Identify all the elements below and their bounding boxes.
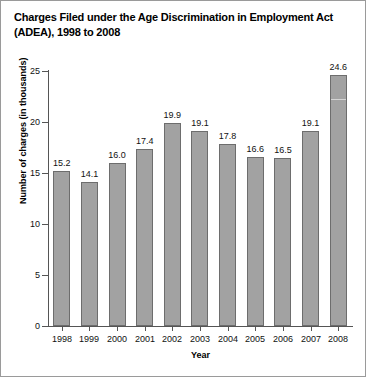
bar-slot: 17.4 <box>131 71 159 326</box>
bar-value-label: 16.0 <box>108 151 126 160</box>
y-axis-tick-label: 10 <box>14 220 40 229</box>
x-axis-tick <box>255 327 256 331</box>
bar-slot: 19.9 <box>159 71 187 326</box>
x-axis-label-2008: 2008 <box>318 334 358 344</box>
x-axis-tick <box>89 327 90 331</box>
y-axis-title: Number of charges (in thousands) <box>18 64 28 204</box>
x-axis-tick <box>228 327 229 331</box>
bar-slot: 24.6 <box>324 71 352 326</box>
x-axis-tick <box>283 327 284 331</box>
bar-value-label: 14.1 <box>81 170 99 179</box>
bar-value-label: 16.6 <box>247 145 265 154</box>
bar-1999[interactable] <box>81 182 98 326</box>
bar-slot: 14.1 <box>76 71 104 326</box>
bar-value-label: 17.8 <box>219 132 237 141</box>
bar-2008[interactable] <box>330 75 347 326</box>
plot-area: 15.214.116.017.419.919.117.816.616.519.1… <box>48 71 352 326</box>
bar-2005[interactable] <box>247 157 264 326</box>
y-axis-tick-label: 0 <box>14 322 40 331</box>
bar-slot: 15.2 <box>48 71 76 326</box>
bar-2002[interactable] <box>164 123 181 326</box>
x-axis-tick <box>117 327 118 331</box>
bar-slot: 16.0 <box>103 71 131 326</box>
chart-figure: Charges Filed under the Age Discriminati… <box>0 0 366 377</box>
x-axis-title: Year <box>48 350 353 360</box>
bar-slot: 16.5 <box>269 71 297 326</box>
x-axis-tick <box>62 327 63 331</box>
bar-value-label: 19.9 <box>164 111 182 120</box>
bar-2004[interactable] <box>219 144 236 326</box>
bar-value-label: 16.5 <box>274 146 292 155</box>
bar-2007[interactable] <box>302 131 319 326</box>
bar-slot: 19.1 <box>297 71 325 326</box>
y-axis-tick <box>42 326 48 327</box>
x-axis-tick <box>200 327 201 331</box>
x-axis-tick <box>311 327 312 331</box>
x-axis-tick <box>338 327 339 331</box>
x-axis-tick <box>145 327 146 331</box>
chart-title: Charges Filed under the Age Discriminati… <box>14 10 354 40</box>
bar-slot: 19.1 <box>186 71 214 326</box>
bar-1998[interactable] <box>53 171 70 326</box>
bar-value-label: 24.6 <box>329 63 347 72</box>
bar-2003[interactable] <box>191 131 208 326</box>
bar-2006[interactable] <box>274 158 291 326</box>
bar-2000[interactable] <box>109 163 126 326</box>
bar-2001[interactable] <box>136 149 153 326</box>
scan-artifact <box>331 99 346 100</box>
bar-slot: 16.6 <box>241 71 269 326</box>
bar-value-label: 17.4 <box>136 137 154 146</box>
x-axis-tick <box>172 327 173 331</box>
y-axis-tick-label: 5 <box>14 271 40 280</box>
bar-value-label: 19.1 <box>191 119 209 128</box>
bar-slot: 17.8 <box>214 71 242 326</box>
bar-value-label: 19.1 <box>302 119 320 128</box>
bar-value-label: 15.2 <box>53 159 71 168</box>
